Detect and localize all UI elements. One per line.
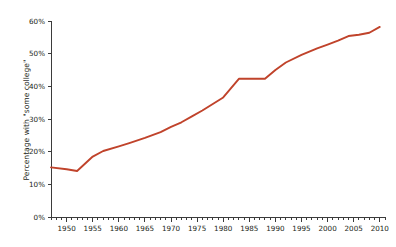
y-tick-label: 0% <box>34 213 46 222</box>
x-tick-label: 1975 <box>188 224 206 233</box>
x-tick-label: 2010 <box>371 224 390 233</box>
chart-container: Percentage with "some college" 0%10%20%3… <box>0 0 396 247</box>
y-tick-label: 30% <box>29 115 45 124</box>
x-tick-label: 1955 <box>84 224 102 233</box>
x-axis-tick-labels: 1950195519601965197019751980198519901995… <box>58 224 390 233</box>
x-tick-label: 1970 <box>162 224 181 233</box>
y-axis-tick-labels: 0%10%20%30%40%50%60% <box>29 17 45 222</box>
x-tick-label: 1950 <box>58 224 77 233</box>
x-tick-label: 1980 <box>214 224 233 233</box>
y-axis-ticks <box>48 21 52 217</box>
y-tick-label: 50% <box>29 49 45 58</box>
x-tick-label: 1960 <box>110 224 129 233</box>
x-tick-label: 1990 <box>266 224 285 233</box>
x-tick-label: 1965 <box>136 224 154 233</box>
y-tick-label: 40% <box>29 82 45 91</box>
y-tick-label: 10% <box>29 180 45 189</box>
x-tick-label: 2000 <box>318 224 337 233</box>
y-tick-label: 60% <box>29 17 45 26</box>
x-tick-label: 2005 <box>345 224 363 233</box>
x-axis-ticks <box>51 217 385 222</box>
x-tick-label: 1995 <box>292 224 310 233</box>
line-chart: Percentage with "some college" 0%10%20%3… <box>0 0 396 247</box>
x-tick-label: 1985 <box>240 224 258 233</box>
y-tick-label: 20% <box>29 147 45 156</box>
data-series-line <box>51 27 380 171</box>
